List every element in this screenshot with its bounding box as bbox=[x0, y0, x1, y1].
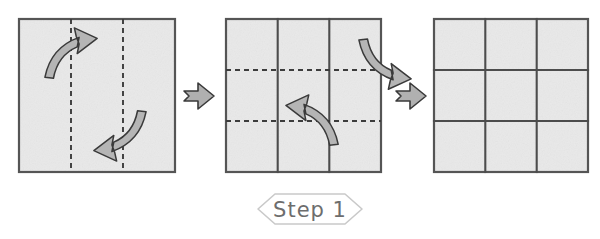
step-badge-label: Step 1 bbox=[273, 198, 347, 222]
diagram-canvas: Step 1 bbox=[0, 0, 600, 239]
panel-initial-square bbox=[19, 19, 175, 172]
panel-vertical-thirds-creased bbox=[226, 19, 411, 172]
paper-surface bbox=[434, 19, 588, 172]
separator-arrow-1 bbox=[184, 83, 214, 109]
step-badge: Step 1 bbox=[258, 194, 362, 224]
panel-completed-grid bbox=[434, 19, 588, 172]
paper-surface bbox=[226, 19, 381, 172]
origami-step-diagram: Step 1 bbox=[0, 0, 600, 239]
separator-arrow-2 bbox=[396, 83, 426, 109]
